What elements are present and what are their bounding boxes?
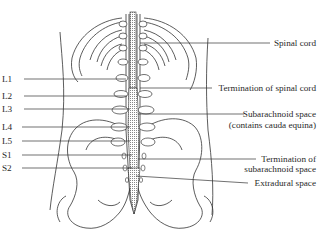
label-S2: S2 [2,163,12,173]
label-extradural-space: Extradural space [255,178,316,188]
leader-extradural [136,176,248,183]
label-subarachnoid-space: Subarachnoid space [243,109,316,119]
label-L1: L1 [2,74,12,84]
label-spinal-cord: Spinal cord [274,38,316,48]
rib-left [71,18,122,82]
spinal-cord [130,12,136,88]
label-termination-spinal-cord: Termination of spinal cord [218,83,316,93]
label-termination-subarachnoid-line2: subarachnoid space [244,164,316,174]
label-termination-subarachnoid: Termination of [261,154,316,164]
torso-right-outline [207,38,213,215]
label-subarachnoid-space-note: (contains cauda equina) [229,120,316,130]
subarachnoid-space [128,88,139,180]
label-S1: S1 [2,150,12,160]
label-L5: L5 [2,136,12,146]
pelvis-left [68,120,131,228]
label-L2: L2 [2,91,12,101]
rib-right [144,18,197,90]
label-L4: L4 [2,122,12,132]
torso-left-outline [50,32,64,210]
rib-left [79,22,122,76]
pelvis-right [138,119,202,229]
label-L3: L3 [2,104,12,114]
